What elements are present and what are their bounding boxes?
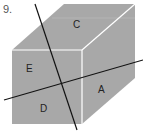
label-right: A: [98, 84, 105, 95]
box-diagram: C E D A: [0, 0, 143, 137]
label-front-upper: E: [26, 63, 33, 74]
label-top: C: [73, 19, 80, 30]
label-front-lower: D: [40, 103, 47, 114]
